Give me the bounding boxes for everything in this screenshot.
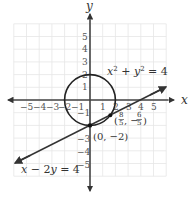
y-tick-labels: 5 4 3 2 1 −1 −3 −4 −5 [77,32,91,170]
point-b-label: ( 8 5 , − 6 5 ) [114,111,147,127]
svg-text:5: 5 [119,119,123,127]
y-tick: 5 [82,32,88,42]
svg-text:(: ( [114,115,118,126]
y-tick: 3 [82,57,88,67]
y-tick: −4 [77,147,91,157]
y-tick: −3 [77,134,91,144]
y-axis-label: y [85,0,93,13]
svg-text:6: 6 [137,111,142,119]
y-tick: 1 [82,82,88,92]
line-arrow-right [150,87,166,95]
circle-equation-label: x2 + y2 = 4 [107,65,168,78]
y-tick: 4 [82,44,88,54]
intersection-point-a [88,123,92,127]
point-a-label: (0, −2) [93,131,128,142]
intersection-point-b [108,113,112,117]
y-tick: −1 [77,108,90,118]
svg-text:8: 8 [119,111,123,119]
svg-text:5: 5 [137,119,141,127]
x-tick: 1 [100,102,106,112]
coordinate-plot: x y −5 −4 −3 −2 −1 1 2 3 4 5 5 4 3 2 1 −… [0,0,192,200]
svg-text:): ) [143,115,147,126]
line-arrow-left [15,156,30,164]
x-axis-label: x [181,93,188,107]
x-tick: −4 [33,102,47,112]
x-tick: −5 [20,102,34,112]
x-tick: 5 [151,102,157,112]
line-equation-label: x − 2y = 4 [21,163,80,176]
